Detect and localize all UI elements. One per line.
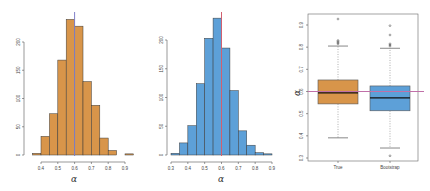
x-tick-label: 0.6 (218, 166, 225, 171)
y-tick-label: 200 (159, 36, 164, 44)
histogram-bar (222, 48, 230, 155)
x-axis-title: α (218, 174, 224, 184)
histogram-bar (49, 114, 57, 155)
y-tick-label: 50 (159, 123, 164, 129)
category-label: True (333, 165, 343, 170)
histogram-bar (196, 84, 204, 155)
y-tick-label: 100 (16, 94, 21, 102)
y-tick-label: 0.8 (299, 44, 304, 51)
x-tick-label: 0.6 (71, 166, 78, 171)
histogram-bar (171, 153, 179, 155)
histogram-bar (91, 105, 99, 155)
y-tick-label: 0 (16, 153, 21, 156)
histogram-bar (125, 154, 133, 155)
category-label: Bootstrap (380, 165, 400, 170)
histogram-bar (255, 153, 263, 155)
y-tick-label: 150 (159, 65, 164, 73)
histogram-bar (264, 154, 272, 155)
y-tick-label: 50 (16, 124, 21, 130)
x-tick-label: 0.4 (38, 166, 45, 171)
y-axis-title: α (292, 90, 302, 96)
x-tick-label: 0.5 (55, 166, 62, 171)
x-tick-label: 0.5 (202, 166, 209, 171)
y-tick-label: 150 (16, 66, 21, 74)
histogram-bar (66, 19, 74, 155)
histogram-bar (179, 143, 187, 155)
y-tick-label: 200 (16, 38, 21, 46)
histogram-bootstrap: 0501001502000.30.40.50.60.70.80.9α (159, 12, 276, 184)
histogram-bar (83, 82, 91, 155)
histogram-bar (100, 138, 108, 155)
y-tick-label: 0.3 (299, 154, 304, 161)
y-tick-label: 0.9 (299, 21, 304, 28)
y-tick-label: 100 (159, 93, 164, 101)
histogram-bar (41, 136, 49, 155)
y-tick-label: 0 (159, 153, 164, 156)
x-tick-label: 0.7 (88, 166, 95, 171)
x-tick-label: 0.9 (269, 166, 276, 171)
histogram-bar (75, 26, 83, 155)
boxplot-comparison: TrueBootstrap0.30.40.50.60.70.80.9α (292, 14, 424, 170)
x-tick-label: 0.4 (185, 166, 192, 171)
outlier-point (389, 25, 391, 27)
histogram-bar (213, 18, 221, 155)
histogram-bar (230, 91, 238, 155)
x-axis-title: α (71, 174, 77, 184)
histogram-bar (33, 153, 41, 155)
histogram-bar (108, 150, 116, 155)
y-tick-label: 0.5 (299, 110, 304, 117)
histogram-true: 0501001502000.40.50.60.70.80.9α (16, 12, 133, 184)
outlier-point (337, 18, 339, 20)
histogram-bar (58, 60, 66, 155)
y-tick-label: 0.7 (299, 66, 304, 73)
histogram-bar (247, 145, 255, 155)
x-tick-label: 0.8 (252, 166, 259, 171)
x-tick-label: 0.3 (168, 166, 175, 171)
histogram-bar (188, 126, 196, 155)
histogram-bar (205, 38, 213, 155)
x-tick-label: 0.9 (122, 166, 129, 171)
outlier-point (389, 155, 391, 157)
x-tick-label: 0.8 (105, 166, 112, 171)
histogram-bar (238, 131, 246, 155)
figure: 0501001502000.40.50.60.70.80.9α 05010015… (0, 0, 430, 191)
x-tick-label: 0.7 (235, 166, 242, 171)
outlier-point (389, 34, 391, 36)
y-tick-label: 0.4 (299, 132, 304, 139)
